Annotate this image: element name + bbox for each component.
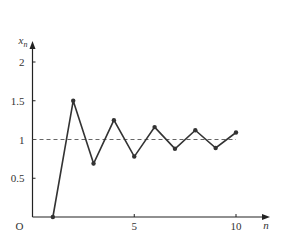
data-point <box>213 146 217 150</box>
series-line <box>53 101 236 217</box>
data-point <box>173 147 177 151</box>
y-tick-label: 1.5 <box>11 95 25 107</box>
y-tick-label: 2 <box>19 56 25 68</box>
chart: 5100.511.52Onxn <box>0 0 282 241</box>
origin-label: O <box>16 220 24 232</box>
data-point <box>234 130 238 134</box>
data-series <box>51 99 239 220</box>
data-point <box>51 215 55 219</box>
y-axis-label: xn <box>18 34 28 49</box>
x-axis-label: n <box>263 219 269 231</box>
data-point <box>91 161 95 165</box>
data-point <box>112 118 116 122</box>
y-tick-label: 0.5 <box>11 172 25 184</box>
y-axis-arrow-icon <box>30 41 36 49</box>
data-point <box>152 125 156 129</box>
y-axis-label-subscript: n <box>23 40 27 49</box>
axes <box>30 41 271 220</box>
x-tick-label: 5 <box>132 220 138 232</box>
data-point <box>193 128 197 132</box>
y-tick-label: 1 <box>19 134 25 146</box>
axis-labels: 5100.511.52Onxn <box>11 34 270 232</box>
data-point <box>71 99 75 103</box>
x-tick-label: 10 <box>231 220 243 232</box>
data-point <box>132 154 136 158</box>
